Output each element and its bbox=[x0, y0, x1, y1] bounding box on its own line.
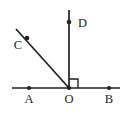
point-label-O: O bbox=[64, 92, 73, 106]
point-label-D: D bbox=[78, 16, 87, 30]
point-dot-D bbox=[67, 20, 72, 25]
geometry-figure: A O B C D bbox=[0, 0, 130, 115]
point-label-B: B bbox=[105, 92, 113, 106]
point-label-A: A bbox=[24, 92, 33, 106]
point-dot-O bbox=[67, 86, 71, 90]
point-dot-B bbox=[107, 86, 111, 90]
point-dot-A bbox=[27, 86, 31, 90]
geometry-canvas: A O B C D bbox=[0, 0, 130, 115]
point-dot-C bbox=[25, 36, 30, 41]
point-label-C: C bbox=[14, 38, 22, 52]
ray-OC bbox=[16, 29, 69, 88]
